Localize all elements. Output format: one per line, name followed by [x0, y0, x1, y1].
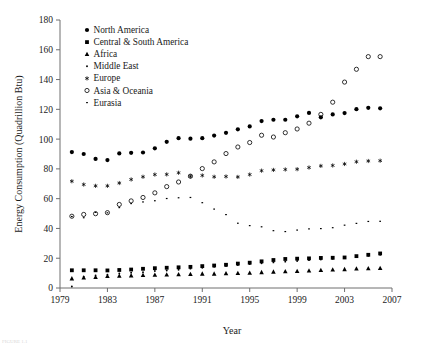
data-point	[213, 266, 215, 268]
x-axis-title: Year	[223, 325, 242, 336]
y-axis-tick-label: 80	[44, 164, 54, 174]
legend-item-north-america[interactable]: North America	[85, 25, 149, 35]
data-point	[295, 257, 299, 261]
data-point	[295, 167, 299, 171]
data-point	[248, 140, 252, 144]
legend-item-middle-east[interactable]: Middle East	[86, 61, 139, 71]
legend-label: North America	[94, 25, 150, 35]
y-axis-tick-label: 60	[44, 194, 54, 204]
data-point	[283, 118, 287, 122]
data-point	[201, 267, 203, 269]
data-point	[188, 272, 193, 276]
data-point	[283, 167, 287, 171]
data-point	[332, 227, 334, 228]
data-point	[342, 80, 346, 84]
data-point	[188, 137, 192, 141]
data-point	[273, 230, 275, 231]
legend-marker-asterisk-icon	[85, 76, 89, 80]
data-point	[378, 106, 382, 110]
legend-item-asia-oceania[interactable]: Asia & Oceania	[85, 86, 153, 96]
series-central-south-america	[70, 252, 382, 273]
y-axis-tick-label: 0	[48, 283, 53, 293]
data-point	[354, 107, 358, 111]
data-point	[212, 175, 216, 179]
data-point	[378, 55, 382, 59]
data-point	[320, 259, 322, 261]
data-point	[165, 266, 169, 270]
legend-item-africa[interactable]: Africa	[85, 49, 118, 59]
data-point	[141, 175, 145, 179]
data-point	[94, 184, 98, 188]
data-point	[296, 260, 298, 262]
data-point	[342, 111, 346, 115]
data-point	[141, 267, 145, 271]
data-point	[236, 145, 240, 149]
y-axis-tick-label: 100	[39, 135, 54, 145]
x-axis-tick-label: 1991	[193, 295, 212, 305]
data-point	[165, 172, 169, 176]
data-point	[224, 174, 228, 178]
legend-item-europe[interactable]: Europe	[85, 73, 120, 83]
data-point	[117, 268, 121, 272]
data-point	[248, 172, 252, 176]
data-point	[200, 173, 204, 177]
data-point	[70, 150, 74, 154]
legend-item-eurasia[interactable]: Eurasia	[86, 98, 121, 108]
data-point	[308, 228, 310, 229]
y-axis-title: Energy Consumption (Quadrillion Btu)	[13, 75, 25, 232]
y-axis-tick-label: 180	[39, 15, 54, 25]
data-point	[236, 271, 241, 275]
data-point	[272, 258, 276, 262]
data-point	[153, 266, 157, 270]
data-point	[307, 111, 311, 115]
data-point	[153, 191, 157, 195]
figure-caption: FIGURE 1.1	[2, 339, 28, 344]
data-point	[70, 276, 75, 280]
data-point	[271, 118, 275, 122]
legend-label: Europe	[94, 73, 121, 83]
data-point	[106, 274, 108, 276]
data-point	[366, 266, 371, 270]
data-point	[95, 212, 97, 213]
data-point	[153, 172, 157, 176]
legend-label: Eurasia	[94, 98, 122, 108]
data-point	[249, 225, 251, 226]
data-point	[82, 212, 86, 216]
data-point	[237, 264, 239, 266]
data-point	[224, 131, 228, 135]
legend-item-central-south-america[interactable]: Central & South America	[85, 37, 188, 47]
data-point	[378, 159, 382, 163]
data-point	[260, 169, 264, 173]
data-point	[307, 165, 311, 169]
data-point	[189, 268, 191, 270]
data-point	[295, 269, 300, 273]
data-point	[261, 262, 263, 264]
series-eurasia	[71, 197, 381, 232]
data-point	[283, 131, 287, 135]
data-point	[95, 274, 97, 276]
data-point	[129, 151, 133, 155]
data-point	[117, 151, 121, 155]
data-point	[271, 269, 276, 273]
data-point	[130, 203, 132, 204]
data-point	[283, 257, 287, 261]
data-point	[367, 255, 369, 257]
data-point	[330, 267, 335, 271]
data-point	[354, 67, 358, 71]
data-point	[107, 212, 109, 213]
data-point	[212, 133, 216, 137]
chart-legend: North AmericaCentral & South AmericaAfri…	[85, 25, 189, 108]
data-point	[70, 268, 74, 272]
data-point	[272, 168, 276, 172]
data-point	[142, 271, 144, 273]
data-point	[249, 263, 251, 265]
y-axis-tick-label: 160	[39, 45, 54, 55]
data-point	[71, 286, 73, 288]
data-point	[71, 216, 73, 217]
data-point	[237, 223, 239, 224]
data-point	[129, 273, 134, 277]
data-point	[319, 268, 324, 272]
legend-marker-open-circle-icon	[85, 88, 89, 92]
data-point	[154, 270, 156, 272]
data-point	[200, 136, 204, 140]
